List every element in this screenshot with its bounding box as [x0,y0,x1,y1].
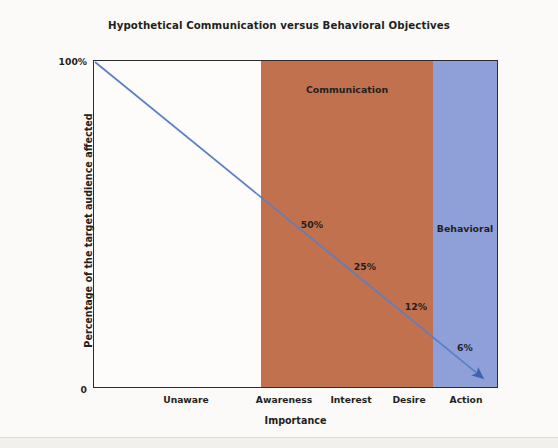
data-label-50: 50% [301,219,323,230]
x-tick-unaware: Unaware [163,394,209,405]
y-axis-title: Percentage of the target audience affect… [83,61,94,401]
plot-area: Communication Behavioral 50% 25% 12% 6% … [93,60,498,388]
x-tick-desire: Desire [392,394,425,405]
x-tick-action: Action [450,394,483,405]
x-tick-awareness: Awareness [256,394,312,405]
data-label-12: 12% [405,301,427,312]
chart-title: Hypothetical Communication versus Behavi… [0,20,558,31]
x-tick-interest: Interest [330,394,371,405]
data-label-25: 25% [354,261,376,272]
bottom-strip [0,438,558,448]
data-label-6: 6% [457,342,473,353]
chart-figure: Hypothetical Communication versus Behavi… [0,0,558,448]
trend-line-arrow [94,61,497,387]
x-axis-title: Importance [93,415,498,426]
